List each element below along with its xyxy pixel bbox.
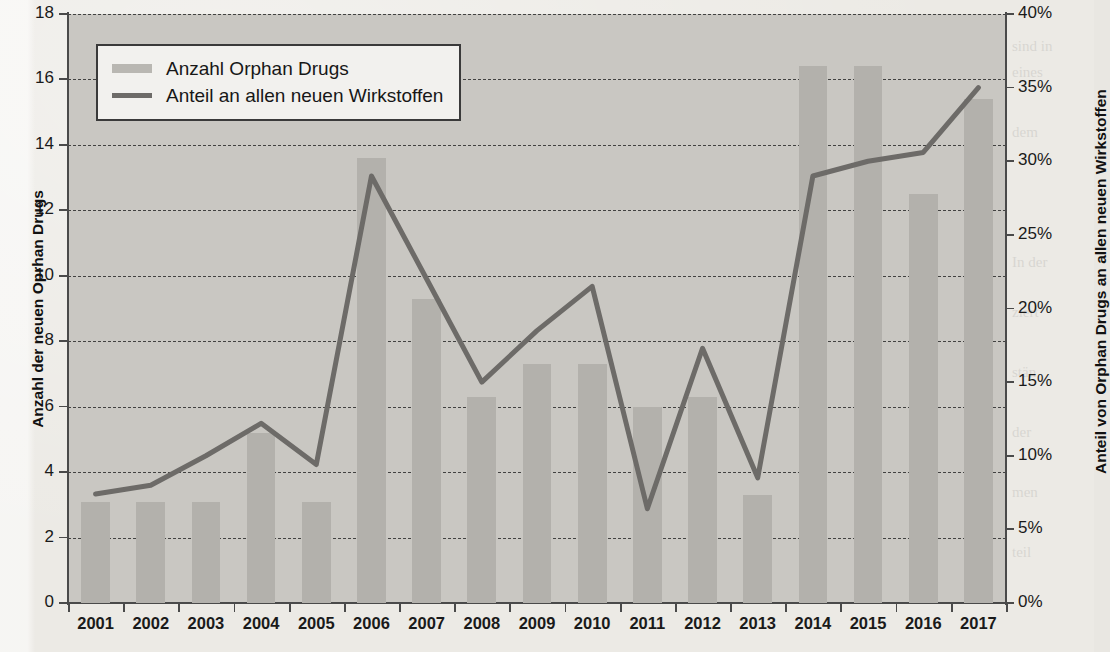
right-axis-tick-label: 0%: [1018, 592, 1078, 612]
x-axis-tick-label: 2004: [233, 614, 289, 633]
bar-swatch-icon: [112, 64, 152, 73]
left-axis-tick-label: 16: [8, 68, 54, 88]
right-axis-tick: [1006, 381, 1014, 383]
x-axis-tick-label: 2007: [399, 614, 455, 633]
x-axis-tick: [675, 603, 677, 612]
left-axis-tick: [59, 406, 67, 408]
right-axis-title: Anteil von Orphan Drugs an allen neuen W…: [1092, 144, 1110, 474]
x-axis-tick: [951, 603, 953, 612]
right-axis-tick: [1006, 87, 1014, 89]
right-axis-tick-label: 40%: [1018, 3, 1078, 23]
x-axis-tick-label: 2011: [619, 614, 675, 633]
x-axis-tick: [454, 603, 456, 612]
x-axis-tick-label: 2016: [895, 614, 951, 633]
x-axis-tick: [509, 603, 511, 612]
chart-legend: Anzahl Orphan Drugs Anteil an allen neue…: [96, 44, 461, 121]
line-path: [96, 88, 979, 509]
legend-item-bar: Anzahl Orphan Drugs: [112, 55, 443, 82]
right-axis-tick: [1006, 13, 1014, 15]
left-axis-tick: [59, 209, 67, 211]
x-axis-tick: [234, 603, 236, 612]
right-axis-tick-label: 15%: [1018, 371, 1078, 391]
left-axis-tick: [59, 537, 67, 539]
x-axis-tick-label: 2010: [564, 614, 620, 633]
x-axis-tick: [785, 603, 787, 612]
x-axis-tick: [178, 603, 180, 612]
x-axis-tick-label: 2014: [785, 614, 841, 633]
x-axis-tick: [399, 603, 401, 612]
left-axis-tick: [59, 275, 67, 277]
x-axis-tick-label: 2009: [509, 614, 565, 633]
x-axis-tick: [896, 603, 898, 612]
x-axis-tick: [840, 603, 842, 612]
left-axis-tick-label: 0: [8, 592, 54, 612]
left-axis-tick-label: 4: [8, 461, 54, 481]
right-axis-tick-label: 30%: [1018, 150, 1078, 170]
right-axis-tick-label: 35%: [1018, 77, 1078, 97]
x-axis-tick-label: 2001: [68, 614, 124, 633]
x-axis-tick-label: 2017: [950, 614, 1006, 633]
x-axis-tick: [123, 603, 125, 612]
right-axis-tick-label: 10%: [1018, 445, 1078, 465]
x-axis-tick-label: 2006: [343, 614, 399, 633]
left-axis-title: Anzahl der neuen Oprhan Drugs: [29, 159, 47, 459]
legend-item-line: Anteil an allen neuen Wirkstoffen: [112, 82, 443, 109]
right-axis-tick: [1006, 234, 1014, 236]
right-axis-tick: [1006, 160, 1014, 162]
x-axis-tick: [565, 603, 567, 612]
x-axis-tick-label: 2008: [454, 614, 510, 633]
left-axis-tick: [59, 13, 67, 15]
x-axis-tick-label: 2002: [123, 614, 179, 633]
right-axis-tick: [1006, 455, 1014, 457]
x-axis-tick-label: 2003: [178, 614, 234, 633]
x-axis-tick: [344, 603, 346, 612]
left-axis-tick: [59, 340, 67, 342]
left-axis-tick-label: 18: [8, 3, 54, 23]
left-axis-tick: [59, 78, 67, 80]
left-axis-tick-label: 2: [8, 527, 54, 547]
right-axis-tick: [1006, 308, 1014, 310]
right-axis-tick: [1006, 528, 1014, 530]
x-axis-tick-label: 2015: [840, 614, 896, 633]
legend-label-line: Anteil an allen neuen Wirkstoffen: [166, 85, 443, 107]
left-axis-tick-label: 14: [8, 134, 54, 154]
x-axis-tick-label: 2005: [288, 614, 344, 633]
legend-label-bar: Anzahl Orphan Drugs: [166, 58, 349, 80]
x-axis-tick: [730, 603, 732, 612]
left-axis-tick: [59, 602, 67, 604]
x-axis-tick-label: 2012: [675, 614, 731, 633]
right-axis-tick-label: 5%: [1018, 518, 1078, 538]
x-axis-tick: [289, 603, 291, 612]
left-axis-tick: [59, 471, 67, 473]
line-swatch-icon: [112, 93, 152, 98]
x-axis-tick-label: 2013: [730, 614, 786, 633]
right-axis-tick-label: 20%: [1018, 298, 1078, 318]
right-axis-tick-label: 25%: [1018, 224, 1078, 244]
left-axis-tick: [59, 144, 67, 146]
x-axis-tick: [620, 603, 622, 612]
